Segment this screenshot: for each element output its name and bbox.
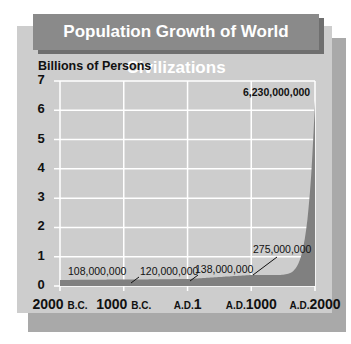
data-label: 108,000,000 bbox=[68, 265, 127, 277]
gridlines bbox=[54, 81, 315, 291]
data-label: 138,000,000 bbox=[195, 263, 254, 275]
data-annotations: 108,000,000120,000,000138,000,000275,000… bbox=[68, 86, 312, 283]
data-label: 275,000,000 bbox=[253, 243, 312, 255]
data-label: 120,000,000 bbox=[140, 265, 199, 277]
data-label: 6,230,000,000 bbox=[243, 86, 310, 98]
plot-area: 108,000,000120,000,000138,000,000275,000… bbox=[0, 0, 351, 344]
leader-line bbox=[253, 257, 277, 275]
